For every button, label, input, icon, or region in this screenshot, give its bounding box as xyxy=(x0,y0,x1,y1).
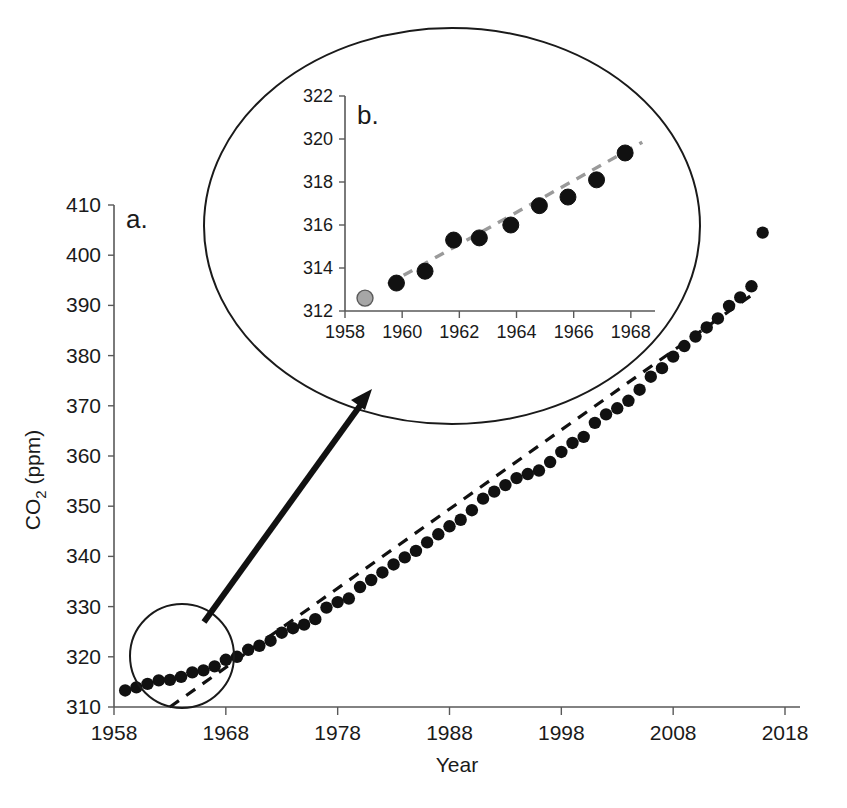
main-data-point xyxy=(566,437,578,449)
inset-x-tick-label: 1968 xyxy=(611,322,651,342)
main-data-point xyxy=(141,678,153,690)
main-y-tick-label: 310 xyxy=(66,695,101,718)
inset-x-tick-label: 1964 xyxy=(496,322,536,342)
main-data-point xyxy=(287,622,299,634)
main-data-point xyxy=(175,671,187,683)
inset-x-tick-group: 195819601962196419661968 xyxy=(325,311,651,342)
main-y-tick-label: 320 xyxy=(66,645,101,668)
main-data-point xyxy=(667,350,679,362)
main-y-tick-label: 380 xyxy=(66,344,101,367)
main-data-point xyxy=(208,660,220,672)
main-data-point xyxy=(611,402,623,414)
panel-label-b: b. xyxy=(357,100,379,130)
main-data-point xyxy=(656,362,668,374)
inset-y-tick-label: 316 xyxy=(303,215,333,235)
inset-x-tick-label: 1962 xyxy=(439,322,479,342)
main-data-point xyxy=(354,581,366,593)
main-x-tick-label: 1978 xyxy=(314,721,361,744)
main-data-point xyxy=(510,472,522,484)
main-data-point xyxy=(622,395,634,407)
main-data-point xyxy=(220,654,232,666)
main-data-point xyxy=(186,666,198,678)
main-data-point xyxy=(443,520,455,532)
main-data-point xyxy=(589,417,601,429)
inset-y-tick-label: 312 xyxy=(303,301,333,321)
inset-y-tick-group: 312314316318320322 xyxy=(303,86,345,321)
zoom-source-circle xyxy=(130,604,234,708)
main-data-point xyxy=(712,312,724,324)
main-data-point xyxy=(466,504,478,516)
inset-y-tick-label: 318 xyxy=(303,172,333,192)
inset-x-tick-label: 1958 xyxy=(325,322,365,342)
main-data-point xyxy=(410,545,422,557)
main-data-point xyxy=(499,479,511,491)
main-data-point xyxy=(197,664,209,676)
callout-group xyxy=(130,28,700,708)
main-data-point xyxy=(522,468,534,480)
main-data-point xyxy=(399,551,411,563)
main-y-tick-group: 310320330340350360370380390400410 xyxy=(66,193,114,718)
main-y-tick-label: 410 xyxy=(66,193,101,216)
main-data-point xyxy=(555,446,567,458)
y-axis-title-sub: 2 xyxy=(32,490,49,498)
main-data-point xyxy=(689,330,701,342)
main-data-point xyxy=(488,485,500,497)
main-data-points xyxy=(119,226,769,696)
main-y-tick-label: 350 xyxy=(66,494,101,517)
panel-label-a: a. xyxy=(126,204,148,234)
main-y-tick-label: 400 xyxy=(66,243,101,266)
inset-x-tick-label: 1966 xyxy=(554,322,594,342)
main-data-point xyxy=(421,536,433,548)
main-x-tick-label: 1958 xyxy=(91,721,138,744)
main-y-tick-label: 360 xyxy=(66,444,101,467)
main-x-tick-label: 2018 xyxy=(762,721,809,744)
co2-figure: CO2 (ppm) 310320330340350360370380390400… xyxy=(0,0,847,808)
inset-y-tick-label: 320 xyxy=(303,129,333,149)
main-data-point xyxy=(578,431,590,443)
inset-y-tick-label: 322 xyxy=(303,86,333,106)
inset-y-tick-label: 314 xyxy=(303,258,333,278)
main-data-point xyxy=(432,528,444,540)
inset-data-point-highlight xyxy=(357,290,373,306)
main-data-point xyxy=(701,321,713,333)
main-data-point xyxy=(264,635,276,647)
inset-data-point xyxy=(417,263,433,279)
inset-panel: 312314316318320322 195819601962196419661… xyxy=(303,86,655,342)
inset-data-point xyxy=(531,198,547,214)
figure-canvas: CO2 (ppm) 310320330340350360370380390400… xyxy=(0,0,847,808)
zoom-arrow-head xyxy=(351,389,372,410)
main-x-axis-title: Year xyxy=(436,753,478,776)
main-y-tick-label: 390 xyxy=(66,293,101,316)
main-data-point xyxy=(600,408,612,420)
main-data-point xyxy=(253,640,265,652)
main-data-point xyxy=(365,574,377,586)
y-axis-title-base: CO xyxy=(21,499,44,531)
main-data-point xyxy=(544,456,556,468)
y-axis-title-unit: (ppm) xyxy=(21,430,44,491)
inset-data-point xyxy=(471,230,487,246)
main-data-point xyxy=(331,596,343,608)
main-x-tick-label: 1998 xyxy=(538,721,585,744)
main-data-point xyxy=(276,627,288,639)
main-data-point xyxy=(343,592,355,604)
main-data-point xyxy=(309,613,321,625)
main-x-tick-label: 1988 xyxy=(426,721,473,744)
main-data-point xyxy=(756,226,768,238)
zoom-detail-ellipse xyxy=(204,28,700,424)
main-data-point xyxy=(454,514,466,526)
main-y-tick-label: 370 xyxy=(66,394,101,417)
main-data-point xyxy=(376,566,388,578)
main-data-point xyxy=(298,618,310,630)
main-y-axis-title: CO2 (ppm) xyxy=(21,430,49,531)
inset-data-point xyxy=(560,189,576,205)
main-x-tick-group: 1958196819781988199820082018 xyxy=(91,707,809,744)
inset-data-point xyxy=(388,275,404,291)
main-data-point xyxy=(734,291,746,303)
main-data-point xyxy=(320,601,332,613)
main-data-point xyxy=(387,558,399,570)
main-y-tick-label: 340 xyxy=(66,544,101,567)
main-data-point xyxy=(231,651,243,663)
inset-data-point xyxy=(503,217,519,233)
main-data-point xyxy=(723,300,735,312)
main-x-tick-label: 2008 xyxy=(650,721,697,744)
